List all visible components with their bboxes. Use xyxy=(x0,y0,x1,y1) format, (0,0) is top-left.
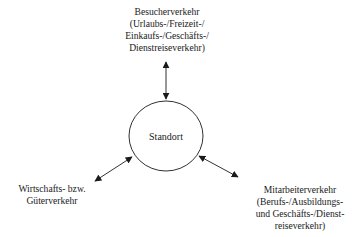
node-wirtschaftsverkehr: Wirtschafts- bzw. Güterverkehr xyxy=(2,183,102,207)
node-title: Wirtschafts- bzw. xyxy=(2,183,102,195)
node-mitarbeiterverkehr: Mitarbeiterverkehr (Berufs-/Ausbildungs-… xyxy=(238,184,358,232)
arrow-left xyxy=(95,157,132,181)
node-detail-line: reiseverkehr) xyxy=(238,220,358,232)
node-detail-line: (Urlaubs-/Freizeit-/ xyxy=(107,18,227,30)
node-besucherverkehr: Besucherverkehr (Urlaubs-/Freizeit-/ Ein… xyxy=(107,6,227,54)
center-label: Standort xyxy=(149,131,183,142)
node-detail-line: (Berufs-/Ausbildungs- xyxy=(238,196,358,208)
node-detail-line: und Geschäfts-/Dienst- xyxy=(238,208,358,220)
node-detail-line: Einkaufs-/Geschäfts-/ xyxy=(107,30,227,42)
node-standort: Standort xyxy=(128,100,204,172)
node-detail-line: Güterverkehr xyxy=(2,195,102,207)
arrow-right xyxy=(199,156,238,177)
node-detail-line: Dienstreiseverkehr) xyxy=(107,42,227,54)
node-title: Mitarbeiterverkehr xyxy=(238,184,358,196)
node-title: Besucherverkehr xyxy=(107,6,227,18)
